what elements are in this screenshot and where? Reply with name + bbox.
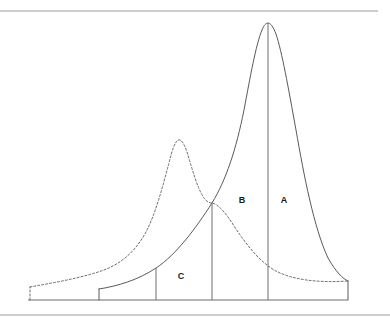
- region-label-a: A: [281, 195, 288, 205]
- solid-distribution-curve: [99, 23, 348, 289]
- distribution-figure-svg: A B C: [0, 0, 390, 322]
- region-label-b: B: [239, 195, 246, 205]
- figure-container: A B C: [0, 0, 390, 322]
- dashed-distribution-curve: [30, 140, 348, 287]
- region-label-c: C: [178, 271, 185, 281]
